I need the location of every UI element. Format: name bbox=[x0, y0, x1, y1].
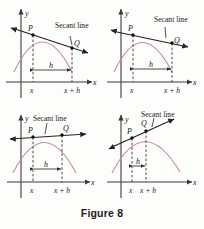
parabola-curve bbox=[14, 42, 72, 72]
tick-x-label: x bbox=[129, 86, 134, 95]
figure-caption: Figure 8 bbox=[0, 207, 204, 219]
x-axis-label: x bbox=[192, 178, 197, 187]
tick-x-label: x bbox=[29, 186, 34, 195]
point-q-label: Q bbox=[63, 124, 69, 133]
panel-grid: y x P Q h x x + h Secant line bbox=[0, 0, 204, 208]
tick-x-plus-h-label: x + h bbox=[63, 86, 80, 95]
point-q-label: Q bbox=[141, 119, 147, 128]
panel-secant-smallest-h: y x P Q h x x + h Secant line bbox=[102, 110, 204, 208]
point-q-label: Q bbox=[174, 36, 180, 45]
y-axis-label: y bbox=[124, 9, 129, 18]
secant-line bbox=[11, 134, 86, 139]
point-q-label: Q bbox=[74, 39, 80, 48]
x-axis-label: x bbox=[92, 78, 97, 87]
point-q bbox=[60, 133, 63, 136]
h-label: h bbox=[49, 61, 53, 70]
secant-label-leader bbox=[165, 27, 166, 38]
y-axis-label: y bbox=[124, 115, 129, 124]
panel-secant-medium-h: y x P Q h x x + h Secant line bbox=[102, 0, 204, 110]
panel-secant-large-h: y x P Q h x x + h Secant line bbox=[0, 0, 102, 110]
axes bbox=[7, 115, 90, 198]
point-p-label: P bbox=[126, 127, 132, 136]
x-axis-label: x bbox=[90, 178, 95, 187]
secant-label-leader bbox=[152, 118, 154, 127]
secant-line-arrow-left bbox=[111, 30, 115, 31]
point-p-label: P bbox=[127, 24, 133, 33]
secant-line-label: Secant line bbox=[141, 110, 175, 119]
point-p-label: P bbox=[27, 126, 33, 135]
point-p bbox=[31, 33, 34, 36]
secant-label-leader bbox=[45, 123, 47, 134]
y-axis-label: y bbox=[24, 114, 29, 123]
h-label: h bbox=[149, 60, 153, 69]
point-p bbox=[131, 33, 134, 36]
tick-x-plus-h-label: x + h bbox=[53, 186, 70, 195]
figure-8-container: y x P Q h x x + h Secant line bbox=[0, 0, 204, 229]
parabola-curve bbox=[114, 43, 172, 73]
point-q bbox=[144, 129, 147, 132]
h-label: h bbox=[44, 160, 48, 169]
secant-line-label: Secant line bbox=[154, 15, 188, 24]
tick-x-label: x bbox=[29, 86, 34, 95]
point-p bbox=[130, 136, 133, 139]
secant-line-label: Secant line bbox=[55, 21, 89, 30]
tick-x-plus-h-label: x + h bbox=[163, 86, 180, 95]
secant-label-leader bbox=[70, 36, 72, 45]
tick-x-label: x bbox=[128, 186, 133, 195]
point-p bbox=[31, 135, 34, 138]
x-axis-label: x bbox=[192, 78, 197, 87]
h-label: h bbox=[136, 157, 140, 166]
tick-x-plus-h-label: x + h bbox=[139, 186, 156, 195]
point-p-label: P bbox=[27, 24, 33, 33]
y-axis-label: y bbox=[24, 9, 29, 18]
panel-secant-small-h: y x P Q h x x + h Secant line bbox=[0, 110, 102, 208]
secant-line-label: Secant line bbox=[33, 114, 67, 123]
